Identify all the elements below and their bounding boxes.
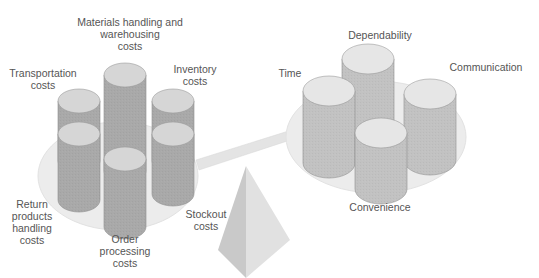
fulcrum-right-face xyxy=(246,166,290,278)
cylinder-return-products-costs-top xyxy=(58,122,100,146)
cylinder-convenience xyxy=(355,118,407,204)
cylinder-communication-top xyxy=(404,79,456,109)
logistics-balance-diagram: Materials handling and warehousing costs… xyxy=(0,0,539,278)
cylinder-return-products-costs xyxy=(58,122,100,212)
cylinder-materials-handling-costs-top xyxy=(104,63,146,87)
label-order-processing-costs: Order processing costs xyxy=(90,233,160,269)
cylinder-dependability-top xyxy=(342,44,394,74)
cylinder-communication xyxy=(404,79,456,175)
label-return-products-handling-costs: Return products handling costs xyxy=(0,198,64,246)
label-inventory-costs: Inventory costs xyxy=(160,63,230,87)
label-convenience: Convenience xyxy=(340,201,420,213)
cylinder-inventory-costs-top xyxy=(152,89,194,113)
cylinder-transportation-costs-top xyxy=(58,89,100,113)
cylinder-time-top xyxy=(303,76,355,106)
label-transportation-costs: Transportation costs xyxy=(3,67,83,91)
cylinder-order-processing-costs-top xyxy=(104,147,146,171)
cylinder-order-processing-costs xyxy=(104,147,146,239)
cylinder-stockout-costs-top xyxy=(152,122,194,146)
label-stockout-costs: Stockout costs xyxy=(176,208,236,232)
label-time: Time xyxy=(270,67,310,79)
label-dependability: Dependability xyxy=(335,29,425,41)
cylinder-convenience-top xyxy=(355,118,407,148)
cylinder-time xyxy=(303,76,355,178)
label-materials-handling-warehousing-costs: Materials handling and warehousing costs xyxy=(60,16,200,52)
cylinder-stockout-costs xyxy=(152,122,194,206)
label-communication: Communication xyxy=(440,61,532,73)
